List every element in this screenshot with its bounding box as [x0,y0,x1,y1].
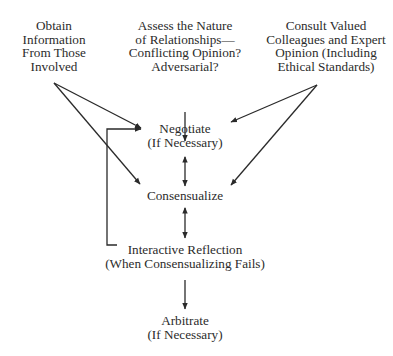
node-text-line: (If Necessary) [135,136,235,150]
node-text-line: Involved [2,60,106,74]
node-text-line: Ethical Standards) [260,60,392,74]
node-arbitrate: Arbitrate (If Necessary) [135,314,235,341]
node-text-line: Consult Valued [260,19,392,33]
node-text-line: Obtain [2,19,106,33]
edge-obtain-negotiate [54,83,141,128]
node-text-line: Information [2,33,106,47]
edge-obtain-consensualize [54,83,140,184]
node-negotiate: Negotiate (If Necessary) [135,122,235,149]
node-text-line: Assess the Nature [120,19,250,33]
node-text-line: Interactive Reflection [100,243,270,257]
node-text-line: Adversarial? [120,60,250,74]
node-consult-colleagues: Consult Valued Colleagues and Expert Opi… [260,19,392,73]
node-text-line: Colleagues and Expert [260,33,392,47]
edge-consult-consensualize [231,85,317,185]
node-text-line: (When Consensualizing Fails) [100,257,270,271]
node-interactive-reflection: Interactive Reflection (When Consensuali… [100,243,270,270]
node-text-line: of Relationships— [120,33,250,47]
node-assess-relationships: Assess the Nature of Relationships— Conf… [120,19,250,73]
node-text-line: From Those [2,46,106,60]
node-text-line: (If Necessary) [135,328,235,342]
node-text-line: Arbitrate [135,314,235,328]
node-text-line: Conflicting Opinion? [120,46,250,60]
node-consensualize: Consensualize [135,189,235,203]
node-obtain-information: Obtain Information From Those Involved [2,19,106,73]
edge-consult-negotiate [231,85,317,122]
node-text-line: Negotiate [135,122,235,136]
node-text-line: Consensualize [135,189,235,203]
node-text-line: Opinion (Including [260,46,392,60]
